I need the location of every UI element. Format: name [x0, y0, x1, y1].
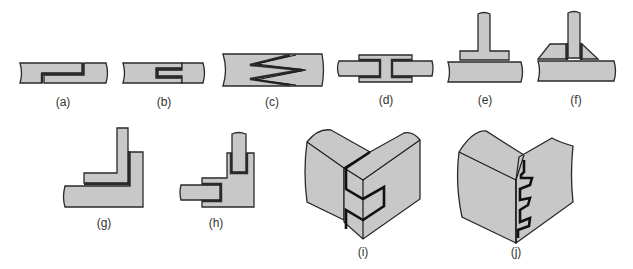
joint-i	[305, 130, 420, 239]
label-a: (a)	[56, 95, 71, 109]
joint-diagram: (a) (b) (c) (d) (e) (f)	[0, 0, 633, 269]
label-b: (b)	[157, 95, 172, 109]
joint-b	[123, 63, 205, 83]
joint-h	[180, 133, 254, 208]
joint-d	[338, 55, 434, 82]
label-h: (h)	[209, 216, 224, 230]
joint-g	[64, 128, 144, 207]
label-j: (j)	[511, 245, 522, 259]
joint-j	[458, 131, 573, 243]
label-g: (g)	[97, 216, 112, 230]
label-c: (c)	[265, 95, 279, 109]
label-i: (i)	[358, 245, 369, 259]
label-d: (d)	[379, 93, 394, 107]
joint-f	[538, 12, 616, 82]
joint-a	[20, 63, 108, 83]
joint-e	[448, 13, 523, 83]
label-f: (f)	[570, 93, 581, 107]
label-e: (e)	[478, 93, 493, 107]
joint-c	[223, 54, 324, 86]
